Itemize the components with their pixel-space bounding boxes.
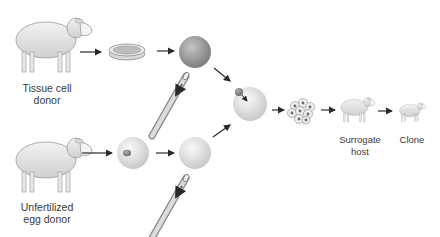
fused-cell: [233, 87, 267, 121]
tissue-donor-sheep: [16, 18, 92, 72]
arrow-egg-to-fused: [213, 125, 230, 137]
enucleated-egg: [179, 137, 211, 169]
egg-cell-with-nucleus: [117, 137, 149, 169]
arrow-donor-to-fused: [214, 68, 230, 81]
clone-lamb: [399, 103, 426, 122]
egg-donor-sheep: [16, 138, 92, 192]
pipette-nucleus-removal: [152, 173, 190, 237]
clone-label: Clone: [392, 134, 432, 146]
surrogate-sheep: [341, 98, 375, 122]
tissue-donor-label: Tissue cell donor: [12, 82, 82, 106]
pipette-nucleus-extraction: [152, 71, 190, 136]
embryo: [288, 99, 315, 125]
petri-dish: [109, 44, 145, 60]
egg-donor-label: Unfertilized egg donor: [8, 201, 86, 225]
donor-cell: [179, 36, 211, 68]
surrogate-label: Surrogate host: [330, 134, 390, 158]
